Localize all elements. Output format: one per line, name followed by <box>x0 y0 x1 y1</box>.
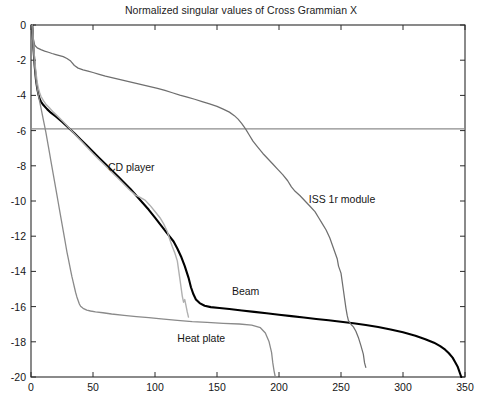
y-tick-label: -20 <box>0 371 26 383</box>
x-tick-label: 150 <box>208 381 226 393</box>
y-tick-label: -2 <box>0 54 26 66</box>
y-tick-label: -12 <box>0 230 26 242</box>
x-tick-label: 300 <box>394 381 412 393</box>
chart-container: Normalized singular values of Cross Gram… <box>0 0 482 403</box>
x-tick-label: 200 <box>270 381 288 393</box>
y-tick-label: -14 <box>0 265 26 277</box>
x-tick-label: 100 <box>146 381 164 393</box>
x-tick-label: 50 <box>87 381 99 393</box>
y-tick-label: -10 <box>0 195 26 207</box>
x-tick-label: 0 <box>28 381 34 393</box>
x-tick-label: 250 <box>332 381 350 393</box>
y-tick-label: -16 <box>0 301 26 313</box>
y-tick-label: -6 <box>0 125 26 137</box>
y-tick-label: -18 <box>0 336 26 348</box>
series-line-heat-plate <box>32 25 275 377</box>
y-tick-label: -8 <box>0 160 26 172</box>
annotation-beam: Beam <box>232 285 259 297</box>
y-tick-label: 0 <box>0 19 26 31</box>
annotation-iss-1r-module: ISS 1r module <box>309 193 376 205</box>
plot-canvas <box>0 0 482 403</box>
annotation-cd-player: CD player <box>108 161 155 173</box>
y-tick-label: -4 <box>0 89 26 101</box>
annotation-heat-plate: Heat plate <box>177 332 225 344</box>
x-tick-label: 350 <box>456 381 474 393</box>
